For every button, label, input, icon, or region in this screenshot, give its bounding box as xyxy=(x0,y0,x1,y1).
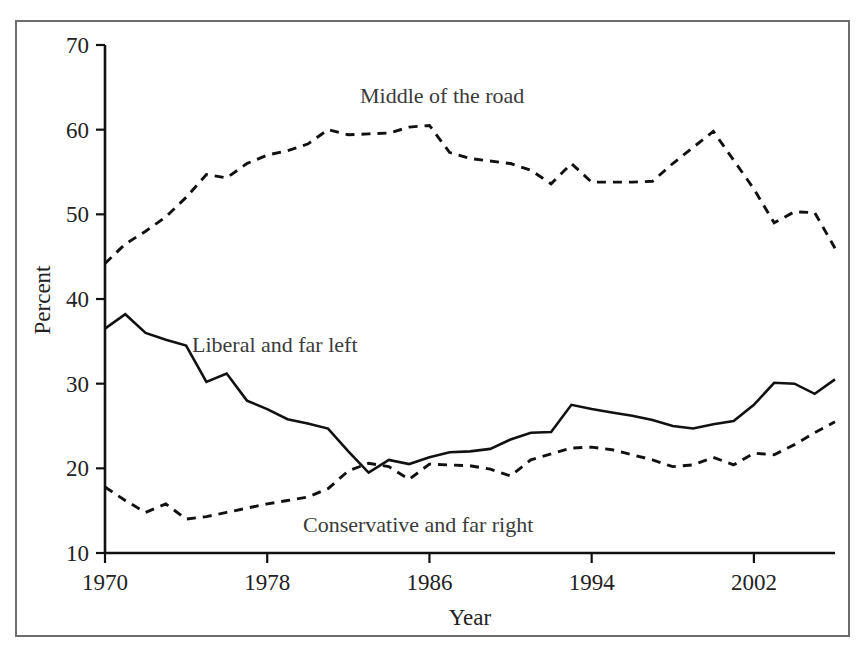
annotation-liberal-and-far-left: Liberal and far left xyxy=(192,332,358,357)
series-group xyxy=(105,125,835,519)
y-axis-title: Percent xyxy=(30,265,55,335)
y-axis-ticks xyxy=(96,45,105,553)
series-line-conservative-and-far-right xyxy=(105,422,835,519)
annotation-conservative-and-far-right: Conservative and far right xyxy=(303,512,533,537)
y-tick-label-60: 60 xyxy=(66,118,89,143)
x-axis-tick-labels: 19701978198619942002 xyxy=(82,570,777,595)
y-tick-label-70: 70 xyxy=(66,33,89,58)
annotation-middle-of-the-road: Middle of the road xyxy=(360,83,524,108)
x-tick-label-1978: 1978 xyxy=(244,570,290,595)
y-tick-label-10: 10 xyxy=(66,541,89,566)
y-tick-label-20: 20 xyxy=(66,456,89,481)
series-line-middle-of-the-road xyxy=(105,125,835,263)
x-tick-label-1986: 1986 xyxy=(406,570,452,595)
y-tick-label-50: 50 xyxy=(66,202,89,227)
y-tick-label-30: 30 xyxy=(66,372,89,397)
y-tick-label-40: 40 xyxy=(66,287,89,312)
x-tick-label-1994: 1994 xyxy=(569,570,616,595)
series-annotations: Middle of the roadLiberal and far leftCo… xyxy=(192,83,533,537)
x-tick-label-1970: 1970 xyxy=(82,570,128,595)
x-axis-ticks xyxy=(105,553,754,563)
x-axis-title: Year xyxy=(449,605,492,630)
line-chart: 10203040506070 19701978198619942002 Midd… xyxy=(0,0,865,654)
figure-container: 10203040506070 19701978198619942002 Midd… xyxy=(0,0,865,654)
y-axis-tick-labels: 10203040506070 xyxy=(66,33,89,566)
x-tick-label-2002: 2002 xyxy=(731,570,777,595)
